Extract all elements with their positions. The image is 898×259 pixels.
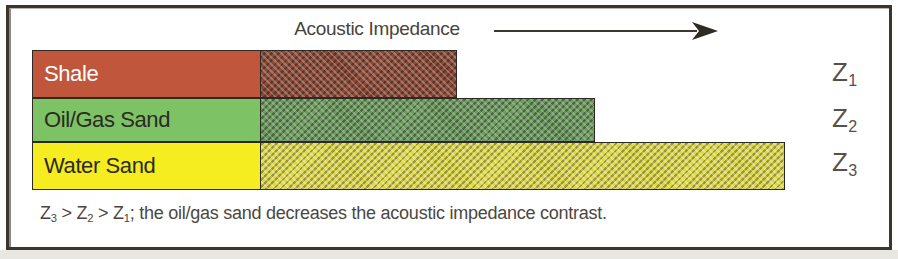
- layer-label-oil-gas-sand: Oil/Gas Sand: [32, 98, 261, 142]
- caption-z1: Z: [113, 203, 124, 223]
- impedance-bar-water-sand: [259, 142, 785, 190]
- impedance-symbol-z3: Z3: [832, 147, 857, 178]
- impedance-bar-oil-gas-sand: [259, 98, 595, 142]
- arrow-right-icon: [492, 20, 722, 42]
- caption-gt-2: >: [93, 203, 113, 223]
- impedance-symbol-z2-base: Z: [832, 103, 848, 133]
- layer-label-shale: Shale: [32, 50, 261, 98]
- impedance-symbol-z1: Z1: [832, 57, 857, 88]
- caption-z3-sub: 3: [51, 212, 57, 224]
- caption-z2: Z: [76, 203, 87, 223]
- caption-rest: ; the oil/gas sand decreases the acousti…: [130, 203, 607, 223]
- caption-z3: Z: [40, 203, 51, 223]
- acoustic-impedance-figure: Acoustic Impedance Shale Oil/Gas Sand Wa…: [0, 0, 898, 259]
- bottom-strip: [0, 250, 898, 259]
- figure-caption: Z3 > Z2 > Z1; the oil/gas sand decreases…: [40, 203, 840, 224]
- caption-z1-sub: 1: [124, 212, 130, 224]
- impedance-bar-shale: [259, 50, 457, 98]
- impedance-symbol-z1-base: Z: [832, 57, 848, 87]
- impedance-symbol-z2: Z2: [832, 103, 857, 134]
- layer-stack: Shale Oil/Gas Sand Water Sand: [32, 50, 762, 190]
- axis-title: Acoustic Impedance: [262, 18, 492, 40]
- impedance-symbol-z1-subscript: 1: [848, 71, 857, 89]
- caption-z2-sub: 2: [87, 212, 93, 224]
- impedance-symbol-z3-base: Z: [832, 147, 848, 177]
- impedance-symbol-z3-subscript: 3: [848, 161, 857, 179]
- impedance-symbol-z2-subscript: 2: [848, 117, 857, 135]
- layer-label-water-sand: Water Sand: [32, 142, 261, 190]
- caption-gt-1: >: [57, 203, 77, 223]
